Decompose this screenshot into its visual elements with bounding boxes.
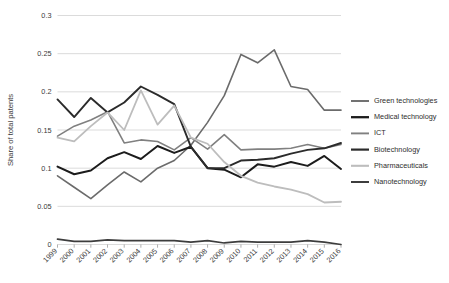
y-tick-label: 0.1 — [41, 164, 51, 173]
legend-item-pharmaceuticals[interactable]: Pharmaceuticals — [351, 161, 428, 170]
chart-legend: Green technologiesMedical technologyICTB… — [351, 96, 438, 186]
chart-container: 00.050.10.150.20.250.3 19992000200120022… — [0, 0, 449, 283]
x-tick-label: 2011 — [242, 247, 259, 264]
x-tick-label: 2008 — [191, 247, 209, 265]
legend-item-biotechnology[interactable]: Biotechnology — [351, 145, 420, 154]
y-tick-label: 0.2 — [41, 87, 51, 96]
line-chart: 00.050.10.150.20.250.3 19992000200120022… — [0, 0, 449, 283]
legend-item-ict[interactable]: ICT — [351, 128, 386, 137]
y-axis-tick-labels: 00.050.10.150.20.250.3 — [37, 11, 51, 249]
x-tick-label: 2000 — [58, 247, 76, 265]
series-line-green-technologies — [58, 50, 342, 199]
legend-label: Medical technology — [374, 112, 437, 121]
y-tick-label: 0.25 — [37, 49, 51, 58]
gridlines — [58, 16, 342, 245]
x-tick-label: 2002 — [91, 247, 109, 265]
x-tick-label: 2016 — [325, 247, 343, 265]
legend-label: Biotechnology — [374, 145, 420, 154]
x-tick-label: 2005 — [141, 247, 159, 265]
x-tick-label: 2009 — [208, 247, 226, 265]
x-tick-label: 2007 — [174, 247, 192, 265]
x-tick-label: 2010 — [225, 247, 243, 265]
x-axis-tick-labels: 1999200020012002200320042005200620072008… — [41, 245, 342, 265]
data-series-lines — [58, 50, 342, 245]
x-tick-label: 2006 — [158, 247, 176, 265]
legend-label: ICT — [374, 128, 386, 137]
legend-item-green-technologies[interactable]: Green technologies — [351, 96, 438, 105]
x-tick-label: 2001 — [74, 247, 92, 265]
y-axis-title-text: Share of total patents — [6, 94, 15, 166]
y-tick-label: 0.05 — [37, 202, 51, 211]
y-tick-label: 0.3 — [41, 11, 51, 20]
series-line-medical-technology — [58, 146, 342, 177]
legend-label: Pharmaceuticals — [374, 161, 428, 170]
x-tick-label: 2004 — [124, 247, 142, 265]
x-tick-label: 2015 — [308, 247, 326, 265]
x-tick-label: 2013 — [275, 247, 293, 265]
x-tick-label: 2014 — [291, 247, 309, 265]
y-tick-label: 0.15 — [37, 126, 51, 135]
x-tick-label: 1999 — [41, 247, 59, 265]
x-tick-label: 2012 — [258, 247, 276, 265]
y-axis-title: Share of total patents — [6, 94, 15, 166]
legend-item-nanotechnology[interactable]: Nanotechnology — [351, 177, 427, 186]
series-line-ict — [58, 112, 342, 150]
legend-item-medical-technology[interactable]: Medical technology — [351, 112, 437, 121]
legend-label: Nanotechnology — [374, 177, 427, 186]
x-tick-label: 2003 — [108, 247, 126, 265]
legend-label: Green technologies — [374, 96, 438, 105]
series-line-nanotechnology — [58, 239, 342, 244]
